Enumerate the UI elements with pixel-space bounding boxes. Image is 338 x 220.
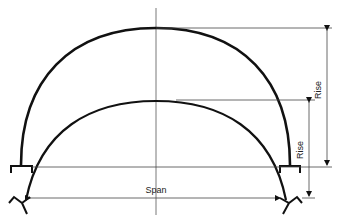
outer-left-support: [11, 166, 32, 173]
arch-diagram: Span Rise Rise: [0, 0, 338, 220]
outer-arch: [21, 28, 290, 165]
outer-rise-label: Rise: [313, 81, 323, 99]
inner-rise-label: Rise: [295, 141, 305, 159]
span-label: Span: [145, 185, 166, 195]
inner-left-support: [9, 197, 30, 214]
inner-right-support: [280, 197, 302, 214]
